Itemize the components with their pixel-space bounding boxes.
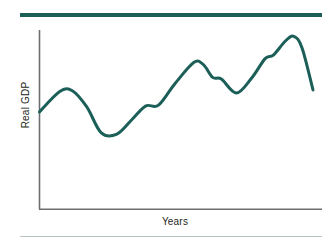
real-gdp-curve bbox=[40, 36, 314, 136]
x-axis-label: Years bbox=[162, 217, 188, 227]
business-cycle-figure: Real GDP Years bbox=[0, 0, 336, 250]
real-gdp-line-chart bbox=[0, 0, 336, 250]
y-axis-label: Real GDP bbox=[21, 82, 31, 129]
bottom-divider-rule bbox=[20, 236, 322, 237]
